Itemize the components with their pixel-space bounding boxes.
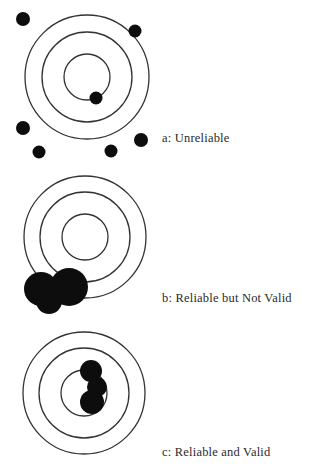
shot-dot — [129, 25, 142, 38]
shot-dot — [80, 390, 104, 414]
target-ring-2 — [42, 32, 132, 122]
target-ring-1 — [23, 332, 145, 454]
shot-dot — [105, 145, 118, 158]
target-reliable-and-valid — [23, 332, 145, 454]
target-ring-3 — [64, 54, 110, 100]
label-reliable-and-valid: c: Reliable and Valid — [162, 445, 270, 460]
shot-dot — [36, 288, 62, 314]
target-unreliable — [16, 12, 149, 159]
target-ring-2 — [39, 348, 129, 438]
label-unreliable: a: Unreliable — [162, 131, 230, 146]
shot-dot — [90, 92, 103, 105]
label-reliable-not-valid: b: Reliable but Not Valid — [162, 291, 292, 306]
reliability-validity-diagram — [0, 0, 318, 474]
target-ring-2 — [40, 192, 130, 282]
shot-dot — [134, 133, 148, 147]
shot-dot — [16, 121, 30, 135]
target-reliable-not-valid — [24, 176, 146, 314]
target-ring-3 — [62, 214, 108, 260]
shot-dot — [33, 146, 46, 159]
shot-dot — [16, 12, 30, 26]
